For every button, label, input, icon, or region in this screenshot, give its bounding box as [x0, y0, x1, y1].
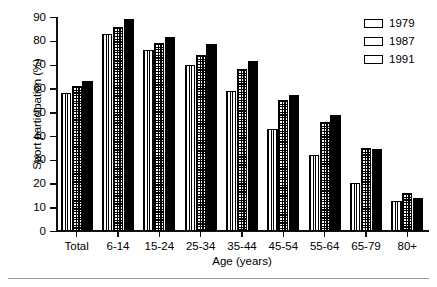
x-tick [365, 231, 366, 237]
x-tick-label-55-64: 55-64 [310, 241, 339, 253]
legend-item-1979: 1979 [364, 16, 415, 31]
y-tick: 60 [50, 88, 56, 89]
bar-35-44-1987 [237, 69, 247, 231]
y-tick-label: 20 [33, 178, 46, 190]
bar-80plus-1987 [402, 193, 412, 231]
y-tick-label: 10 [33, 202, 46, 214]
legend-label: 1991 [389, 54, 415, 66]
x-tick-label-6-14: 6-14 [106, 241, 129, 253]
bar-55-64-1979 [309, 155, 319, 231]
y-tick-label: 0 [40, 226, 46, 238]
bar-15-24-1987 [154, 43, 164, 231]
y-axis-line [56, 17, 58, 231]
legend: 197919871991 [364, 16, 415, 70]
y-tick: 40 [50, 136, 56, 137]
x-tick [159, 231, 160, 237]
bar-35-44-1991 [248, 61, 258, 231]
bar-15-24-1979 [143, 50, 153, 231]
bar-25-34-1987 [196, 55, 206, 231]
legend-swatch-icon-1991 [364, 55, 383, 65]
x-axis-label: Age (years) [56, 255, 428, 267]
bar-6-14-1991 [124, 19, 134, 231]
bar-45-54-1991 [289, 95, 299, 231]
y-tick-label: 50 [33, 107, 46, 119]
bar-65-79-1987 [361, 148, 371, 231]
x-tick-label-35-44: 35-44 [227, 241, 256, 253]
bar-6-14-1987 [113, 27, 123, 231]
bar-80plus-1979 [391, 201, 401, 231]
y-tick-label: 40 [33, 131, 46, 143]
x-tick [407, 231, 408, 237]
legend-item-1991: 1991 [364, 52, 415, 67]
y-tick: 80 [50, 41, 56, 42]
legend-label: 1979 [389, 18, 415, 30]
x-tick [76, 231, 77, 237]
x-tick-label-65-79: 65-79 [351, 241, 380, 253]
x-tick [200, 231, 201, 237]
legend-label: 1987 [389, 36, 415, 48]
bar-35-44-1979 [226, 91, 236, 231]
y-tick: 70 [50, 65, 56, 66]
bar-Total-1979 [61, 93, 71, 231]
y-tick: 50 [50, 112, 56, 113]
bar-6-14-1979 [102, 34, 112, 231]
bar-45-54-1987 [278, 100, 288, 231]
x-tick-label-25-34: 25-34 [186, 241, 215, 253]
x-tick-label-45-54: 45-54 [269, 241, 298, 253]
y-tick-label: 60 [33, 83, 46, 95]
sport-participation-bar-chart: Sport participation (%) 0102030405060708… [0, 0, 437, 287]
bar-25-34-1991 [206, 44, 216, 231]
y-tick-label: 30 [33, 155, 46, 167]
x-tick [241, 231, 242, 237]
x-tick-label-80plus: 80+ [398, 241, 418, 253]
bar-25-34-1979 [185, 65, 195, 231]
bar-45-54-1979 [267, 129, 277, 231]
bar-65-79-1979 [350, 183, 360, 231]
legend-item-1987: 1987 [364, 34, 415, 49]
y-tick-label: 80 [33, 36, 46, 48]
x-tick-label-15-24: 15-24 [145, 241, 174, 253]
y-tick: 0 [50, 231, 56, 232]
y-tick-label: 70 [33, 59, 46, 71]
bar-80plus-1991 [413, 198, 423, 231]
bar-55-64-1991 [330, 115, 340, 232]
y-tick-label: 90 [33, 12, 46, 24]
footer-divider [8, 278, 429, 279]
x-tick [117, 231, 118, 237]
bar-55-64-1987 [320, 122, 330, 231]
y-tick: 90 [50, 17, 56, 18]
y-tick: 20 [50, 183, 56, 184]
y-tick: 30 [50, 160, 56, 161]
legend-swatch-icon-1979 [364, 19, 383, 29]
bar-Total-1987 [72, 86, 82, 231]
x-tick [283, 231, 284, 237]
legend-swatch-icon-1987 [364, 37, 383, 47]
x-tick-label-Total: Total [65, 241, 89, 253]
bar-Total-1991 [82, 81, 92, 231]
x-tick [324, 231, 325, 237]
bar-15-24-1991 [165, 37, 175, 231]
bar-65-79-1991 [372, 149, 382, 231]
y-tick: 10 [50, 207, 56, 208]
